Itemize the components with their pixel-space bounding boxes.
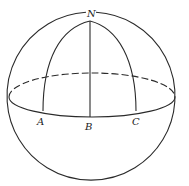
label-a: A [36,116,44,127]
sphere-outline [7,12,175,180]
meridian-NC [90,21,136,111]
equator-back-dashed [9,73,175,97]
label-n: N [86,8,97,19]
label-b: B [84,121,92,132]
sphere-diagram: N A B C [0,0,189,186]
meridian-NA [43,21,90,111]
equator-front [9,97,175,117]
label-c: C [132,116,140,127]
